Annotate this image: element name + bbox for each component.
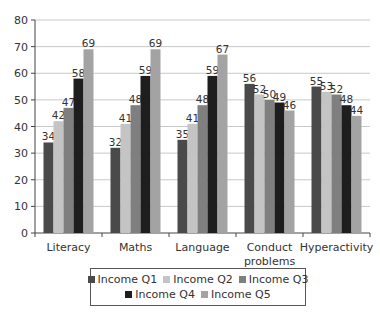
bar xyxy=(275,103,285,233)
bar-value-label: 59 xyxy=(206,64,219,76)
bar-value-label: 59 xyxy=(139,64,152,76)
bar xyxy=(322,92,332,233)
legend-item-q5: Income Q5 xyxy=(201,287,271,302)
bar xyxy=(54,121,64,233)
bar xyxy=(285,111,295,233)
y-tick-label: 20 xyxy=(14,174,28,187)
bar-value-label: 35 xyxy=(176,128,189,140)
bar xyxy=(352,116,362,233)
bar xyxy=(64,108,74,233)
legend-item-q1: Income Q1 xyxy=(88,272,158,287)
x-category-label: Language xyxy=(175,241,230,254)
legend-label-q1: Income Q1 xyxy=(98,272,158,287)
x-category-label: Literacy xyxy=(46,241,91,254)
legend-label-q3: Income Q3 xyxy=(249,272,309,287)
bar xyxy=(245,84,255,233)
y-tick-label: 30 xyxy=(14,147,28,160)
y-tick-label: 50 xyxy=(14,94,28,107)
x-category-label: Maths xyxy=(119,241,153,254)
bar-value-label: 69 xyxy=(149,37,162,49)
bar xyxy=(111,148,121,233)
bar-value-label: 41 xyxy=(119,112,132,124)
bar xyxy=(342,105,352,233)
bar xyxy=(44,142,54,233)
bar-value-label: 42 xyxy=(52,109,65,121)
x-category-label: problems xyxy=(244,255,296,268)
bar xyxy=(151,49,161,233)
y-tick-label: 10 xyxy=(14,200,28,213)
y-tick-label: 0 xyxy=(21,227,28,240)
bar-value-label: 34 xyxy=(42,130,56,142)
legend-swatch-q5 xyxy=(201,291,208,298)
legend-row-2: Income Q4 Income Q5 xyxy=(125,287,270,302)
x-category-label: Hyperactivity xyxy=(300,241,374,254)
bar xyxy=(332,95,342,233)
bar-value-label: 67 xyxy=(216,43,229,55)
legend-row-1: Income Q1 Income Q2 Income Q3 xyxy=(88,272,309,287)
y-tick-label: 70 xyxy=(14,41,28,54)
bar xyxy=(131,105,141,233)
y-tick-label: 80 xyxy=(14,14,28,27)
bar-value-label: 48 xyxy=(129,93,142,105)
bar xyxy=(198,105,208,233)
bar-value-label: 58 xyxy=(72,67,85,79)
legend-swatch-q2 xyxy=(163,276,170,283)
bar-value-label: 32 xyxy=(109,136,122,148)
bar xyxy=(74,79,84,233)
bar-value-label: 41 xyxy=(186,112,199,124)
bar xyxy=(121,124,131,233)
legend-swatch-q4 xyxy=(125,291,132,298)
legend-swatch-q1 xyxy=(88,276,95,283)
bar xyxy=(188,124,198,233)
legend-swatch-q3 xyxy=(239,276,246,283)
x-category-label: Conduct xyxy=(247,241,293,254)
bar xyxy=(312,87,322,233)
y-tick-label: 60 xyxy=(14,67,28,80)
legend-label-q4: Income Q4 xyxy=(135,287,195,302)
legend-label-q5: Income Q5 xyxy=(211,287,271,302)
bar-value-label: 46 xyxy=(283,99,297,111)
bar-value-label: 44 xyxy=(350,104,364,116)
bar xyxy=(178,140,188,233)
legend-label-q2: Income Q2 xyxy=(173,272,233,287)
bar-value-label: 47 xyxy=(62,96,75,108)
bar xyxy=(141,76,151,233)
bar xyxy=(84,49,94,233)
bar xyxy=(255,95,265,233)
bar-value-label: 48 xyxy=(196,93,209,105)
legend-item-q4: Income Q4 xyxy=(125,287,195,302)
legend-item-q3: Income Q3 xyxy=(239,272,309,287)
bar-value-label: 69 xyxy=(82,37,95,49)
bar xyxy=(265,100,275,233)
y-tick-label: 40 xyxy=(14,121,28,134)
bar xyxy=(218,55,228,233)
legend-item-q2: Income Q2 xyxy=(163,272,233,287)
bar xyxy=(208,76,218,233)
chart-legend: Income Q1 Income Q2 Income Q3 Income Q4 … xyxy=(90,268,306,306)
